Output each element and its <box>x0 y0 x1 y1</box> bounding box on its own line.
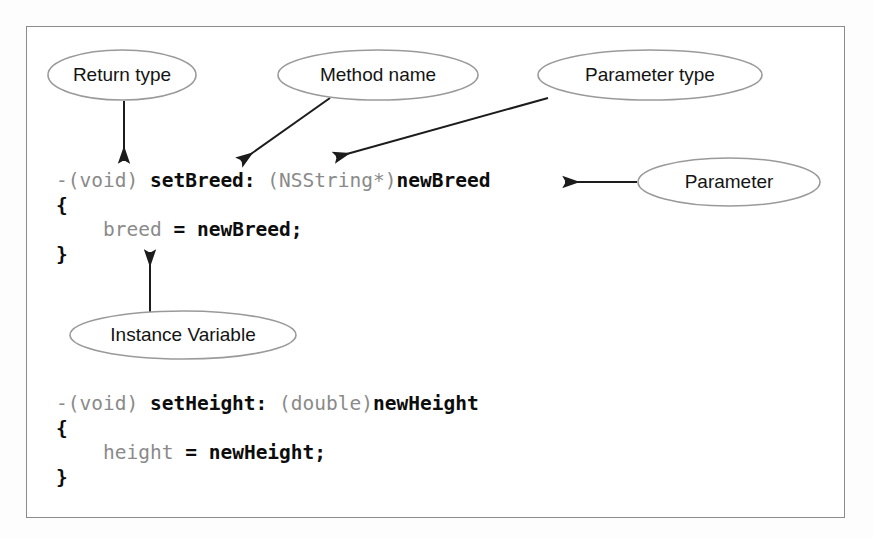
code-token: { <box>56 194 68 217</box>
code-token: (NSString*) <box>267 169 396 192</box>
code-token: = <box>185 441 197 464</box>
diagram-page: -(void) setBreed: (NSString*)newBreed{ b… <box>0 0 873 538</box>
code-line: breed = newBreed; <box>56 218 490 243</box>
code-line: } <box>56 466 479 491</box>
code-token <box>267 392 279 415</box>
code-token <box>197 441 209 464</box>
code-token: -(void) <box>56 392 138 415</box>
code-token: { <box>56 417 68 440</box>
code-line: height = newHeight; <box>56 441 479 466</box>
code-line: { <box>56 417 479 442</box>
code-line: } <box>56 243 490 268</box>
code-token <box>56 441 103 464</box>
code-token: = <box>173 218 185 241</box>
code-token: newBreed; <box>197 218 303 241</box>
code-block-setbreed: -(void) setBreed: (NSString*)newBreed{ b… <box>56 169 490 267</box>
code-token: setBreed: <box>150 169 256 192</box>
code-token: (double) <box>279 392 373 415</box>
code-line: { <box>56 194 490 219</box>
code-token <box>256 169 268 192</box>
code-token <box>173 441 185 464</box>
code-token <box>162 218 174 241</box>
code-line: -(void) setBreed: (NSString*)newBreed <box>56 169 490 194</box>
code-token: -(void) <box>56 169 138 192</box>
code-token: } <box>56 243 68 266</box>
code-token: newHeight; <box>209 441 326 464</box>
code-token <box>56 218 103 241</box>
code-token: setHeight: <box>150 392 267 415</box>
code-token: newBreed <box>397 169 491 192</box>
code-token: height <box>103 441 173 464</box>
code-token <box>138 392 150 415</box>
code-token: newHeight <box>373 392 479 415</box>
code-line: -(void) setHeight: (double)newHeight <box>56 392 479 417</box>
code-block-setheight: -(void) setHeight: (double)newHeight{ he… <box>56 392 479 490</box>
code-token <box>138 169 150 192</box>
code-token <box>185 218 197 241</box>
code-token: breed <box>103 218 162 241</box>
code-token: } <box>56 466 68 489</box>
